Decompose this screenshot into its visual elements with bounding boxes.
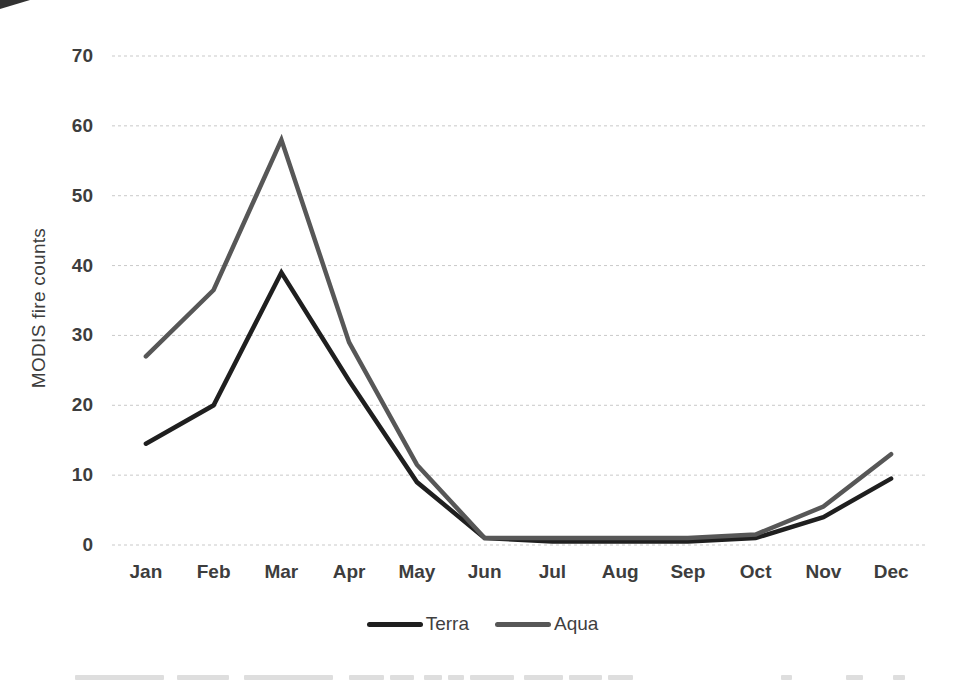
plot-area	[0, 0, 965, 681]
aqua-series-line	[146, 140, 891, 538]
legend-item-terra: Terra	[367, 613, 469, 635]
legend: TerraAqua	[0, 612, 965, 636]
terra-series-line	[146, 273, 891, 542]
cropped-caption-fragment	[75, 675, 905, 681]
legend-label: Terra	[426, 613, 469, 635]
y-axis-title: MODIS fire counts	[28, 228, 50, 388]
legend-label: Aqua	[554, 613, 598, 635]
legend-line-sample	[495, 622, 551, 627]
legend-item-aqua: Aqua	[495, 613, 598, 635]
legend-line-sample	[367, 622, 423, 627]
chart-figure: MODIS fire counts 010203040506070 JanFeb…	[0, 0, 965, 681]
